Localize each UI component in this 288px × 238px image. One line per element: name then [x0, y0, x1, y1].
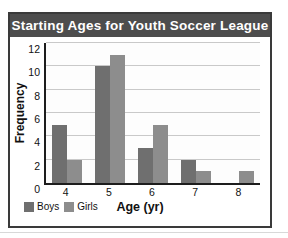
bar-boys-age-5	[95, 66, 110, 183]
x-tick-label: 8	[217, 186, 260, 200]
x-tick-label: 4	[44, 186, 87, 200]
y-axis-tick-labels: 024681012	[26, 43, 42, 183]
bar-boys-age-6	[138, 148, 153, 183]
y-tick-label: 8	[34, 90, 40, 101]
x-tick-label: 5	[87, 186, 130, 200]
y-tick-label: 0	[34, 184, 40, 195]
bar-girls-age-5	[110, 55, 125, 183]
page-edge-line	[0, 232, 288, 233]
y-tick-label: 6	[34, 114, 40, 125]
chart-card: Starting Ages for Youth Soccer League Fr…	[8, 12, 272, 228]
y-tick-label: 4	[34, 137, 40, 148]
bar-boys-age-7	[181, 160, 196, 183]
bar-group	[174, 43, 217, 183]
x-tick-label: 7	[174, 186, 217, 200]
y-tick-label: 2	[34, 160, 40, 171]
chart-footer: BoysGirls Age (yr)	[10, 201, 270, 223]
bar-boys-age-4	[52, 125, 67, 183]
x-axis-title: Age (yr)	[10, 200, 270, 214]
plot-area	[44, 43, 260, 185]
bar-group	[46, 43, 89, 183]
x-axis-tick-labels: 45678	[44, 186, 260, 200]
y-tick-label: 12	[28, 44, 40, 55]
bar-groups	[46, 43, 260, 183]
bar-group	[132, 43, 175, 183]
chart-title-bar: Starting Ages for Youth Soccer League	[10, 14, 270, 37]
page-title: Starting Ages for Youth Soccer League	[12, 18, 269, 33]
bar-girls-age-7	[196, 171, 211, 183]
bar-group	[217, 43, 260, 183]
y-tick-label: 10	[28, 67, 40, 78]
bar-girls-age-6	[153, 125, 168, 183]
plot-container: Frequency 024681012 45678 BoysGirls Age …	[10, 37, 270, 226]
bar-girls-age-4	[67, 160, 82, 183]
bar-girls-age-8	[239, 171, 254, 183]
bar-group	[89, 43, 132, 183]
x-tick-label: 6	[130, 186, 173, 200]
